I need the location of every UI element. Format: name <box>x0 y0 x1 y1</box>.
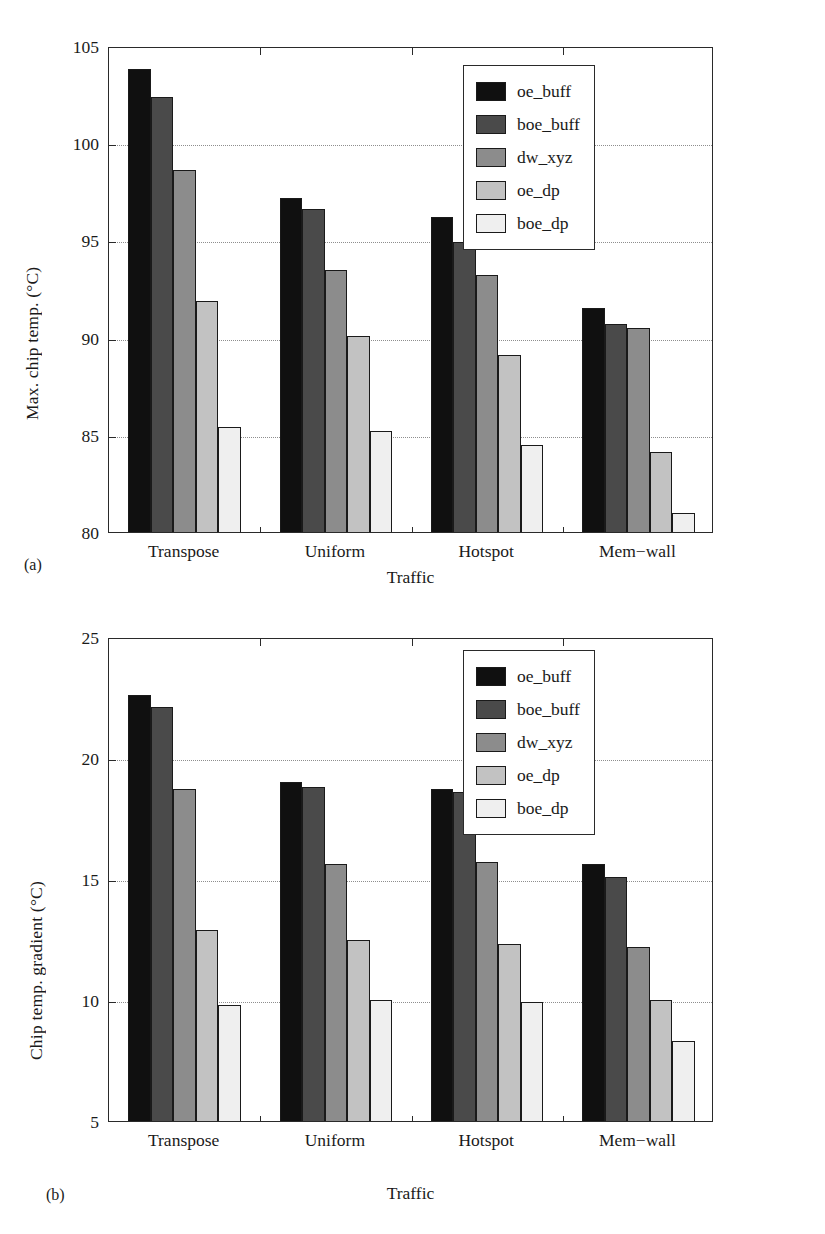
legend-item-boe_dp[interactable]: boe_dp <box>476 792 580 825</box>
x-tick-mark <box>563 48 564 55</box>
y-tick-label: 15 <box>82 870 100 891</box>
bar-oe_dp-hotspot <box>498 944 521 1121</box>
bar-dw_xyz-uniform <box>325 270 348 532</box>
x-tick-mark <box>260 48 261 55</box>
bar-boe_buff-uniform <box>302 787 325 1121</box>
x-category-label: Hotspot <box>458 1130 513 1151</box>
bar-oe_dp-mem-wall <box>650 452 673 532</box>
bar-boe_dp-hotspot <box>521 1002 544 1121</box>
gridline <box>109 242 712 243</box>
bar-dw_xyz-uniform <box>325 864 348 1121</box>
x-tick-mark <box>412 639 413 646</box>
x-axis-label-b: Traffic <box>108 1183 713 1204</box>
y-tick-label: 85 <box>82 425 100 446</box>
y-axis-label-b: Chip temp. gradient (°C) <box>26 670 47 1060</box>
panel-tag-b: (b) <box>46 1186 65 1204</box>
bar-boe_dp-uniform <box>370 431 393 532</box>
y-tick-mark <box>109 340 116 341</box>
x-tick-mark <box>412 1116 413 1121</box>
gridline <box>109 760 712 761</box>
bar-dw_xyz-mem-wall <box>627 328 650 532</box>
bar-boe_buff-uniform <box>302 209 325 532</box>
legend-label: boe_dp <box>517 800 569 818</box>
y-tick-label: 95 <box>82 231 100 252</box>
legend-item-boe_buff[interactable]: boe_buff <box>476 108 580 141</box>
chart-panel-b: Chip temp. gradient (°C) (b) Traffic 510… <box>0 600 825 1234</box>
y-tick-label: 25 <box>82 628 100 649</box>
bar-oe_buff-hotspot <box>431 789 454 1121</box>
bar-boe_buff-mem-wall <box>605 324 628 532</box>
legend-label: boe_dp <box>517 215 569 233</box>
figure-page: Max. chip temp. (°C) (a) Traffic 8085909… <box>0 0 825 1234</box>
y-tick-mark <box>109 437 116 438</box>
plot-inner-b <box>109 639 712 1121</box>
legend-swatch-oe_buff <box>476 667 506 686</box>
legend-label: dw_xyz <box>517 149 572 167</box>
bar-oe_buff-uniform <box>280 782 303 1121</box>
plot-area-a <box>108 47 713 533</box>
plot-inner-a <box>109 48 712 532</box>
y-tick-label: 90 <box>82 328 100 349</box>
bar-boe_dp-transpose <box>218 427 241 532</box>
y-tick-label: 105 <box>73 37 99 58</box>
bar-oe_buff-transpose <box>128 69 151 532</box>
x-axis-label-a: Traffic <box>108 567 713 588</box>
legend-swatch-oe_dp <box>476 181 506 200</box>
bar-boe_buff-transpose <box>151 707 174 1121</box>
legend-swatch-boe_buff <box>476 700 506 719</box>
bar-oe_buff-mem-wall <box>582 308 605 532</box>
legend-item-oe_buff[interactable]: oe_buff <box>476 75 580 108</box>
legend-item-boe_dp[interactable]: boe_dp <box>476 207 580 240</box>
legend-item-oe_dp[interactable]: oe_dp <box>476 174 580 207</box>
bar-dw_xyz-transpose <box>173 789 196 1121</box>
bar-oe_dp-transpose <box>196 930 219 1121</box>
x-category-label: Mem−wall <box>599 541 676 562</box>
x-tick-mark <box>412 527 413 532</box>
legend-label: boe_buff <box>517 701 580 719</box>
y-tick-mark <box>109 242 116 243</box>
legend-swatch-boe_buff <box>476 115 506 134</box>
y-tick-mark <box>109 1002 116 1003</box>
legend-item-oe_buff[interactable]: oe_buff <box>476 660 580 693</box>
legend-label: dw_xyz <box>517 734 572 752</box>
x-tick-mark <box>260 1116 261 1121</box>
x-category-label: Mem−wall <box>599 1130 676 1151</box>
bar-boe_dp-uniform <box>370 1000 393 1121</box>
chart-legend: oe_buffboe_buffdw_xyzoe_dpboe_dp <box>463 650 595 835</box>
bar-boe_buff-transpose <box>151 97 174 532</box>
bar-dw_xyz-hotspot <box>476 275 499 532</box>
y-tick-label: 5 <box>90 1112 99 1133</box>
y-tick-mark <box>109 145 116 146</box>
bar-boe_dp-mem-wall <box>672 1041 695 1121</box>
legend-label: oe_dp <box>517 767 560 785</box>
legend-label: oe_buff <box>517 83 571 101</box>
x-category-label: Transpose <box>148 541 219 562</box>
bar-oe_buff-transpose <box>128 695 151 1121</box>
bar-boe_dp-hotspot <box>521 445 544 532</box>
x-tick-mark <box>563 527 564 532</box>
bar-boe_dp-mem-wall <box>672 513 695 532</box>
x-category-label: Transpose <box>148 1130 219 1151</box>
bar-boe_buff-hotspot <box>453 792 476 1121</box>
bar-oe_buff-uniform <box>280 198 303 532</box>
legend-item-dw_xyz[interactable]: dw_xyz <box>476 141 580 174</box>
x-category-label: Uniform <box>305 541 365 562</box>
y-tick-mark <box>109 881 116 882</box>
legend-item-dw_xyz[interactable]: dw_xyz <box>476 726 580 759</box>
gridline <box>109 145 712 146</box>
legend-swatch-boe_dp <box>476 214 506 233</box>
bar-boe_dp-transpose <box>218 1005 241 1121</box>
legend-swatch-oe_buff <box>476 82 506 101</box>
legend-item-boe_buff[interactable]: boe_buff <box>476 693 580 726</box>
y-tick-label: 80 <box>82 523 100 544</box>
panel-tag-a: (a) <box>24 556 42 574</box>
legend-item-oe_dp[interactable]: oe_dp <box>476 759 580 792</box>
bar-oe_dp-uniform <box>347 336 370 532</box>
y-axis-label-a: Max. chip temp. (°C) <box>22 120 43 420</box>
legend-label: oe_dp <box>517 182 560 200</box>
bar-dw_xyz-mem-wall <box>627 947 650 1121</box>
y-tick-label: 20 <box>82 749 100 770</box>
chart-legend: oe_buffboe_buffdw_xyzoe_dpboe_dp <box>463 65 595 250</box>
legend-swatch-oe_dp <box>476 766 506 785</box>
bar-boe_buff-hotspot <box>453 242 476 532</box>
